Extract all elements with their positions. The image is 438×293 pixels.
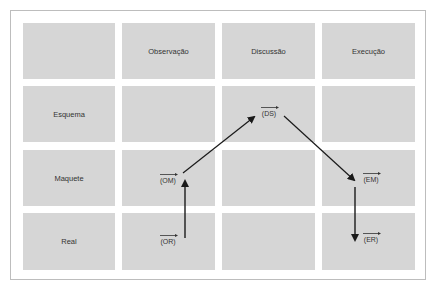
- arrow-om-to-ds: [183, 117, 254, 173]
- flow-arrows: [0, 0, 438, 293]
- arrow-ds-to-em: [284, 116, 354, 180]
